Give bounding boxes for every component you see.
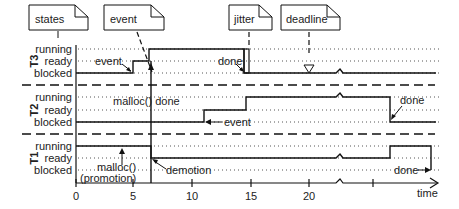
t1-promotion-label: (promotion) <box>80 172 136 184</box>
deadline-marker-icon <box>304 65 314 73</box>
svg-text:running: running <box>35 140 72 152</box>
svg-text:running: running <box>35 43 72 55</box>
t3-event-label: event <box>95 55 122 67</box>
x-axis-label: time <box>417 187 438 199</box>
svg-text:blocked: blocked <box>34 116 72 128</box>
svg-text:ready: ready <box>44 55 72 67</box>
task-label-t3: T3 <box>28 55 40 68</box>
svg-text:10: 10 <box>186 190 198 202</box>
svg-text:0: 0 <box>73 190 79 202</box>
svg-text:running: running <box>35 91 72 103</box>
timing-diagram: states event jitter deadline T3 T2 T1 ru… <box>0 0 459 209</box>
svg-text:15: 15 <box>245 190 257 202</box>
svg-text:5: 5 <box>130 190 136 202</box>
svg-text:states: states <box>35 13 65 25</box>
t2-malloc-done-label: malloc() done <box>113 95 180 107</box>
task-label-t2: T2 <box>28 104 40 117</box>
t1-demotion-label: demotion <box>166 164 211 176</box>
note-states: states <box>29 5 88 38</box>
svg-text:20: 20 <box>303 190 315 202</box>
t3-done-label: done <box>218 55 242 67</box>
note-deadline: deadline <box>281 5 340 54</box>
note-jitter: jitter <box>229 5 272 46</box>
t2-event-label: event <box>224 116 251 128</box>
svg-text:event: event <box>110 13 137 25</box>
svg-text:blocked: blocked <box>34 164 72 176</box>
t1-done-label: done <box>394 164 418 176</box>
svg-text:blocked: blocked <box>34 67 72 79</box>
svg-text:jitter: jitter <box>233 13 255 25</box>
svg-text:ready: ready <box>44 104 72 116</box>
task-label-t1: T1 <box>28 152 40 165</box>
svg-text:ready: ready <box>44 152 72 164</box>
svg-text:deadline: deadline <box>286 13 328 25</box>
t2-done-label: done <box>400 94 424 106</box>
